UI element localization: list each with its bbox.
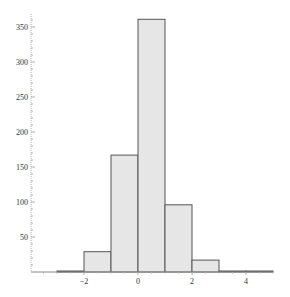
histogram-bar xyxy=(165,205,192,272)
y-tick-label: 150 xyxy=(16,163,28,172)
histogram-bar xyxy=(192,260,219,272)
x-tick-label: 0 xyxy=(136,277,140,286)
x-tick-label: 4 xyxy=(244,277,248,286)
y-tick-label: 350 xyxy=(16,23,28,32)
y-tick-label: 200 xyxy=(16,128,28,137)
y-tick-label: 250 xyxy=(16,93,28,102)
histogram-bar xyxy=(111,155,138,272)
y-tick-label: 300 xyxy=(16,58,28,67)
y-tick-label: 50 xyxy=(20,233,28,242)
histogram-chart: 50100150200250300350 −2024 xyxy=(0,0,290,297)
x-tick-label: −2 xyxy=(80,277,89,286)
y-tick-label: 100 xyxy=(16,198,28,207)
histogram-bar xyxy=(84,252,111,272)
histogram-bars xyxy=(57,19,273,272)
x-axis: −2024 xyxy=(31,272,273,286)
histogram-bar xyxy=(138,19,165,272)
y-axis: 50100150200250300350 xyxy=(16,14,35,272)
x-tick-label: 2 xyxy=(190,277,194,286)
